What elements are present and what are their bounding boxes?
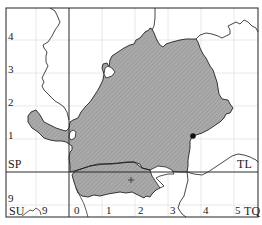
axis-label-su-9: 9 xyxy=(42,205,48,216)
axis-label-bottom-2: 2 xyxy=(138,205,144,216)
river-north-west xyxy=(152,8,155,30)
grid-square-sp-label: SP xyxy=(8,158,22,170)
axis-label-bottom-1: 1 xyxy=(106,205,112,216)
axis-label-bottom-3: 3 xyxy=(170,205,176,216)
grid-square-tl-label: TL xyxy=(237,158,252,170)
river-west xyxy=(42,8,69,120)
map-canvas xyxy=(0,0,262,225)
location-dot-marker xyxy=(190,133,196,139)
axis-label-left-1: 1 xyxy=(8,130,14,141)
axis-label-left-3: 3 xyxy=(8,64,14,75)
axis-label-bottom-5: 5 xyxy=(235,205,241,216)
river-south xyxy=(178,172,188,217)
grid-square-tq-label: TQ xyxy=(244,205,260,217)
axis-label-bottom-0: 0 xyxy=(74,205,80,216)
river-north xyxy=(196,20,258,39)
axis-label-left-2: 2 xyxy=(8,97,14,108)
axis-label-left-9: 9 xyxy=(8,193,14,204)
axis-label-left-4: 4 xyxy=(8,31,14,42)
grid-square-su-label: SU xyxy=(9,205,25,217)
axis-label-bottom-4: 4 xyxy=(203,205,209,216)
